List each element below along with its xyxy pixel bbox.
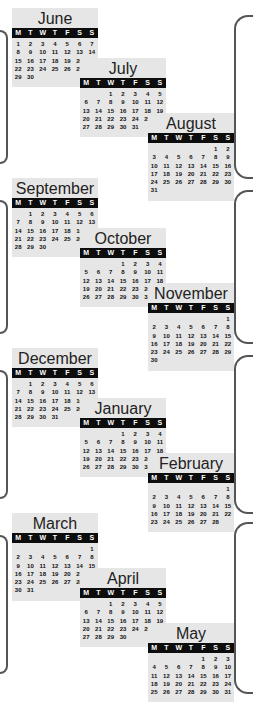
month-title: October: [80, 228, 166, 248]
weekday-label: T: [24, 533, 36, 543]
day-cell: 4: [154, 430, 166, 438]
day-cell: 28: [92, 123, 104, 131]
weekday-label: T: [49, 198, 61, 208]
weekday-label: S: [141, 418, 153, 428]
day-cell: 21: [197, 170, 209, 178]
weekday-label: M: [80, 588, 92, 598]
weekday-label: S: [86, 198, 98, 208]
day-cell: 3: [222, 655, 234, 663]
day-cell: 15: [222, 502, 234, 510]
day-cell: 14: [209, 502, 221, 510]
weekday-label: S: [141, 588, 153, 598]
weekday-label: T: [185, 643, 197, 653]
calendar-february: FebruaryMTWTFSS1234567891011121314151617…: [148, 453, 234, 532]
weekday-label: W: [173, 133, 185, 143]
month-title: November: [148, 283, 234, 303]
day-cell: 4: [148, 663, 160, 671]
day-cell: 18: [61, 227, 73, 235]
day-cell: 21: [209, 510, 221, 518]
day-cell: 9: [12, 562, 24, 570]
weekday-label: S: [222, 473, 234, 483]
day-cell: 11: [148, 672, 160, 680]
day-cell: 8: [24, 218, 36, 226]
weekday-label: T: [160, 473, 172, 483]
day-cell: 14: [185, 672, 197, 680]
day-cell: 13: [92, 447, 104, 455]
day-cell: 2: [209, 655, 221, 663]
weekday-label: S: [209, 473, 221, 483]
month-title: December: [12, 348, 98, 368]
day-cell: 29: [12, 73, 24, 81]
empty-cell: [92, 600, 104, 608]
day-cell: 2: [148, 323, 160, 331]
day-cell: 22: [209, 170, 221, 178]
empty-cell: [160, 485, 172, 493]
day-cell: 26: [61, 65, 73, 73]
weekday-label: F: [61, 368, 73, 378]
weekday-header: MTWTFSS: [80, 418, 166, 428]
day-cell: 13: [61, 562, 73, 570]
day-cell: 21: [92, 625, 104, 633]
month-title: August: [148, 113, 234, 133]
month-title: March: [12, 513, 98, 533]
weekday-label: F: [197, 643, 209, 653]
day-cell: 15: [105, 617, 117, 625]
empty-cell: [197, 485, 209, 493]
day-cell: 17: [160, 510, 172, 518]
day-cell: 3: [160, 323, 172, 331]
day-cell: 15: [222, 332, 234, 340]
day-cell: 23: [129, 455, 141, 463]
day-cell: 30: [129, 293, 141, 301]
day-cell: 1: [222, 485, 234, 493]
day-cell: 14: [92, 617, 104, 625]
day-cell: 29: [24, 413, 36, 421]
day-cell: 28: [209, 348, 221, 356]
day-cell: 2: [117, 600, 129, 608]
day-cell: 6: [92, 438, 104, 446]
weekday-label: W: [173, 643, 185, 653]
empty-cell: [80, 260, 92, 268]
day-cell: 8: [12, 48, 24, 56]
day-cell: 4: [61, 380, 73, 388]
day-cell: 14: [12, 397, 24, 405]
day-cell: 23: [148, 348, 160, 356]
weekday-header: MTWTFSS: [148, 303, 234, 313]
day-cell: 23: [37, 235, 49, 243]
day-cell: 18: [37, 570, 49, 578]
day-grid: 1234567891011121314151617181920212223242…: [148, 485, 234, 526]
day-cell: 8: [117, 438, 129, 446]
day-cell: 30: [117, 633, 129, 641]
day-cell: 5: [80, 268, 92, 276]
empty-cell: [92, 90, 104, 98]
weekday-label: S: [73, 368, 85, 378]
day-cell: 28: [185, 688, 197, 696]
weekday-label: W: [37, 28, 49, 38]
day-cell: 2: [129, 260, 141, 268]
day-cell: 12: [80, 447, 92, 455]
day-cell: 22: [117, 455, 129, 463]
day-cell: 5: [73, 210, 85, 218]
day-cell: 23: [129, 285, 141, 293]
weekday-label: F: [61, 28, 73, 38]
day-cell: 6: [61, 553, 73, 561]
day-cell: 7: [105, 438, 117, 446]
day-cell: 3: [129, 600, 141, 608]
empty-cell: [148, 315, 160, 323]
day-cell: 3: [141, 260, 153, 268]
day-cell: 19: [49, 570, 61, 578]
day-cell: 12: [73, 218, 85, 226]
weekday-label: W: [105, 248, 117, 258]
day-cell: 15: [117, 447, 129, 455]
day-cell: 12: [73, 388, 85, 396]
day-cell: 4: [37, 553, 49, 561]
weekday-label: M: [12, 368, 24, 378]
month-title: June: [12, 8, 98, 28]
day-cell: 23: [117, 115, 129, 123]
day-cell: 5: [49, 553, 61, 561]
weekday-label: S: [73, 28, 85, 38]
day-cell: 5: [185, 323, 197, 331]
weekday-label: W: [37, 533, 49, 543]
day-cell: 31: [24, 586, 36, 594]
weekday-label: M: [148, 473, 160, 483]
day-cell: 9: [37, 388, 49, 396]
